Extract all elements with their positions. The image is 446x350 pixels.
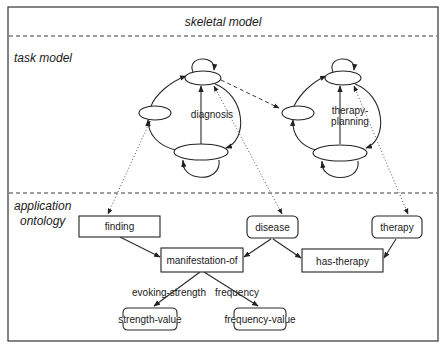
- node-label: has-therapy: [316, 256, 369, 267]
- task-state-left: [282, 106, 314, 120]
- node-label: disease: [255, 222, 290, 233]
- section-title-ontology: ontology: [20, 214, 66, 228]
- node-finding[interactable]: finding: [79, 216, 160, 237]
- node-label: frequency-value: [224, 314, 296, 325]
- mapping-line-finding: [108, 121, 150, 214]
- task-cycle-diagnosis: diagnosis: [139, 59, 241, 177]
- node-label: strength-value: [118, 314, 182, 325]
- node-strength-value[interactable]: strength-value: [118, 308, 182, 330]
- task-state-top: [185, 71, 221, 85]
- task-state-bottom: [174, 144, 228, 160]
- section-title-task-model: task model: [14, 51, 72, 65]
- ontology-graph: finding disease therapy manifestation-of…: [79, 216, 422, 330]
- section-title-skeletal-model: skeletal model: [185, 15, 262, 29]
- node-has-therapy[interactable]: has-therapy: [302, 249, 383, 272]
- cycle-label-planning: planning: [331, 116, 369, 127]
- task-cycle-therapy-planning: therapy- planning: [282, 59, 381, 178]
- node-label: manifestation-of: [166, 255, 237, 266]
- edge-label-evoking-strength: evoking-strength: [132, 287, 206, 298]
- edge-label-frequency: frequency: [215, 287, 259, 298]
- node-frequency-value[interactable]: frequency-value: [224, 308, 296, 330]
- node-label: therapy: [380, 222, 413, 233]
- node-label: finding: [105, 221, 134, 232]
- node-disease[interactable]: disease: [247, 216, 298, 238]
- task-state-left: [139, 106, 171, 120]
- task-state-bottom: [313, 145, 367, 161]
- diagram-canvas: skeletal model task model application on…: [0, 0, 446, 350]
- cycle-label-diagnosis: diagnosis: [191, 109, 233, 120]
- node-therapy[interactable]: therapy: [372, 216, 422, 238]
- node-manifestation-of[interactable]: manifestation-of: [161, 248, 243, 272]
- section-title-application: application: [14, 199, 72, 213]
- task-state-top: [325, 71, 361, 85]
